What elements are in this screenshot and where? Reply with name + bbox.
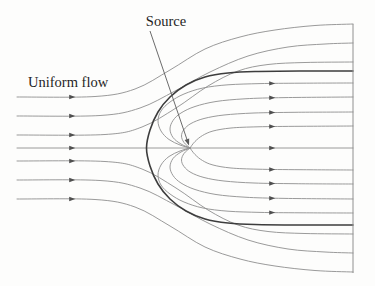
source-label: Source: [146, 13, 186, 29]
flow-diagram-figure: Source Uniform flow: [0, 0, 375, 286]
uniform-flow-label: Uniform flow: [28, 74, 109, 90]
flow-svg: Source Uniform flow: [0, 0, 375, 286]
